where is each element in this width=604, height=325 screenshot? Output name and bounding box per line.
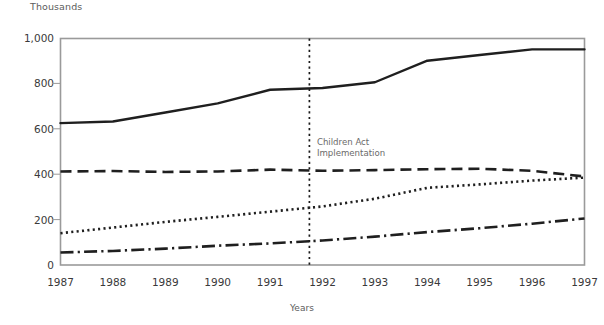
x-tick-label: 1995 [466,276,493,288]
x-tick-label: 1996 [519,276,546,288]
x-tick-label: 1994 [414,276,441,288]
x-tick-label: 1990 [204,276,231,288]
series-dotted-line [61,178,585,234]
series-solid-line [61,49,585,123]
series-dashed-line [61,169,585,177]
x-tick-label: 1987 [47,276,74,288]
chart-canvas [0,0,604,325]
y-axis-tick-marks [52,83,60,219]
children-act-annotation-label: Children Act Implementation [317,137,385,159]
x-tick-label: 1997 [571,276,598,288]
x-tick-label: 1993 [362,276,389,288]
line-chart: Thousands 1,000 800 600 400 200 0 Childr… [0,0,604,325]
x-tick-label: 1991 [257,276,284,288]
x-axis-title: Years [0,303,604,313]
x-tick-label: 1988 [100,276,127,288]
x-tick-label: 1992 [309,276,336,288]
x-tick-label: 1989 [152,276,179,288]
series-dash-dot-line [61,218,585,252]
